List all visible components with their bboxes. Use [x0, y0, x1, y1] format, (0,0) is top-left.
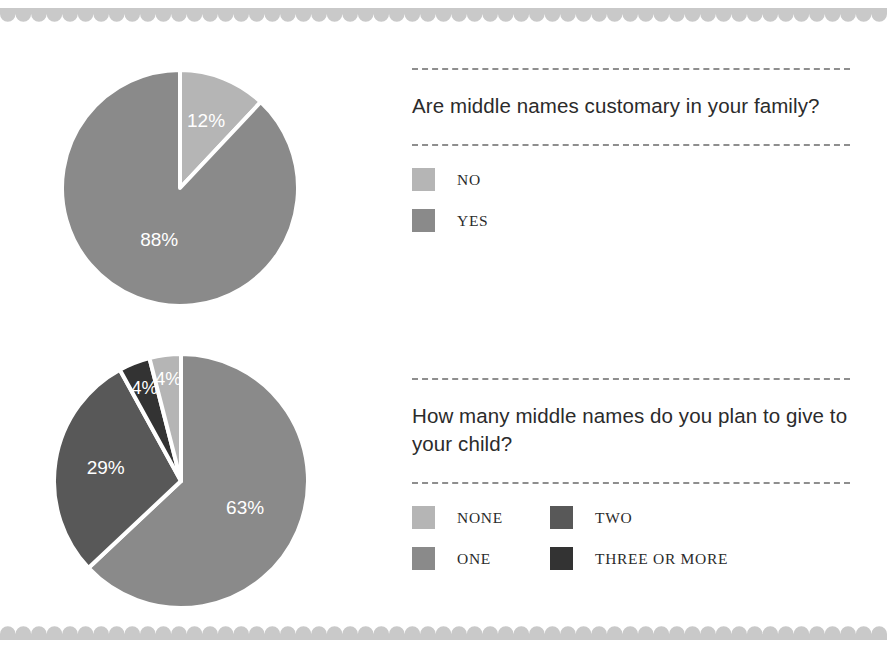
pie-slice-label-none: 4% [155, 369, 181, 389]
pie-chart-middle-names-customary: 12%88% [60, 68, 300, 308]
legend-item-one[interactable]: ONE [412, 547, 550, 570]
question-panel-middle-names-customary: Are middle names customary in your famil… [412, 68, 850, 232]
scalloped-border-top [0, 8, 887, 28]
legend-label: NONE [457, 509, 503, 527]
pie-slice-label-three-or-more: 4% [132, 378, 158, 398]
legend-item-three-or-more[interactable]: THREE OR MORE [550, 547, 850, 570]
legend-swatch-two [550, 506, 573, 529]
pie-slice-label-two: 29% [87, 457, 125, 478]
question-text-2: How many middle names do you plan to giv… [412, 380, 850, 482]
question-panel-how-many-middle-names: How many middle names do you plan to giv… [412, 378, 850, 570]
legend-how-many-middle-names: NONETWOONETHREE OR MORE [412, 484, 850, 570]
legend-label: NO [457, 171, 481, 189]
pie-slice-yes [62, 70, 298, 306]
legend-swatch-none [412, 506, 435, 529]
question-text-1: Are middle names customary in your famil… [412, 70, 850, 144]
infographic-page: 12%88% 63%29%4%4% Are middle names custo… [0, 0, 887, 654]
legend-item-none[interactable]: NONE [412, 506, 550, 529]
pie-slice-label-no: 12% [187, 110, 225, 131]
legend-swatch-no [412, 168, 435, 191]
legend-item-two[interactable]: TWO [550, 506, 850, 529]
legend-middle-names-customary: NOYES [412, 146, 850, 232]
legend-item-no[interactable]: NO [412, 168, 850, 191]
legend-swatch-three-or-more [550, 547, 573, 570]
pie-slice-label-yes: 88% [140, 229, 178, 250]
legend-swatch-yes [412, 209, 435, 232]
scalloped-border-bottom [0, 620, 887, 640]
legend-swatch-one [412, 547, 435, 570]
legend-label: YES [457, 212, 488, 230]
legend-label: ONE [457, 550, 491, 568]
pie-chart-how-many-middle-names: 63%29%4%4% [52, 352, 310, 610]
pie-slice-label-one: 63% [226, 497, 264, 518]
legend-label: TWO [595, 509, 632, 527]
legend-item-yes[interactable]: YES [412, 209, 850, 232]
legend-label: THREE OR MORE [595, 550, 728, 568]
